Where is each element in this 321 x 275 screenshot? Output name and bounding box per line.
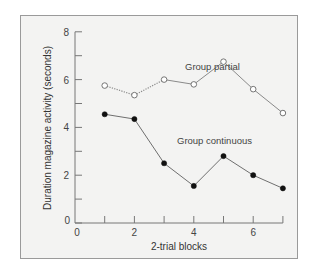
partial-line-segment [134, 80, 164, 96]
label-group-partial: Group partial [185, 61, 240, 72]
axes: 024680246 [63, 27, 282, 238]
filled-circle-marker [191, 183, 196, 188]
y-tick-label: 4 [63, 122, 69, 133]
continuous-line-segment [105, 114, 135, 119]
open-circle-marker [191, 82, 197, 88]
continuous-line-segment [164, 163, 194, 186]
continuous-line-segment [134, 119, 164, 163]
open-circle-marker [161, 77, 167, 83]
y-tick-label: 6 [63, 75, 69, 86]
y-axis-title: Duration magazine activity (seconds) [42, 46, 53, 210]
continuous-line-segment [194, 156, 224, 186]
x-tick-label: 2 [132, 227, 138, 238]
x-axis-title: 2-trial blocks [151, 241, 207, 252]
filled-circle-marker [280, 186, 285, 191]
x-tick-label: 6 [250, 227, 256, 238]
y-tick-label: 8 [63, 27, 69, 38]
filled-circle-marker [102, 112, 107, 117]
x-tick-label: 0 [74, 227, 80, 238]
filled-circle-marker [132, 116, 137, 121]
y-tick-label: 0 [64, 215, 70, 226]
partial-line-segment [105, 86, 135, 96]
open-circle-marker [280, 110, 286, 116]
partial-line-segment [253, 89, 283, 113]
open-circle-marker [132, 92, 138, 98]
filled-circle-marker [221, 153, 226, 158]
filled-circle-marker [251, 173, 256, 178]
label-group-continuous: Group continuous [177, 135, 252, 146]
open-circle-marker [102, 83, 108, 89]
line-chart: 024680246 Group partial Group continuous… [0, 0, 321, 275]
x-tick-label: 4 [191, 227, 197, 238]
filled-circle-marker [162, 161, 167, 166]
y-tick-label: 2 [63, 170, 69, 181]
open-circle-marker [250, 86, 256, 92]
partial-line-segment [164, 80, 194, 85]
continuous-line-segment [224, 156, 254, 175]
series-group [102, 59, 286, 191]
continuous-line-segment [253, 175, 283, 188]
